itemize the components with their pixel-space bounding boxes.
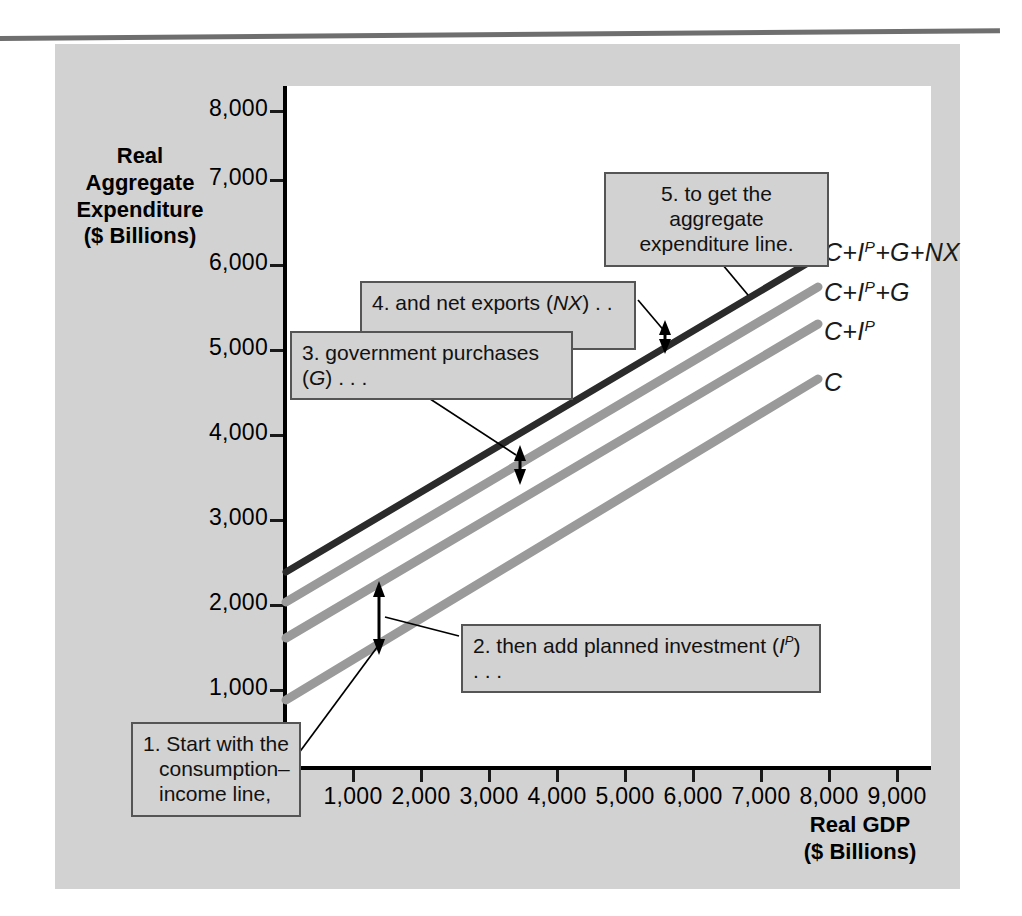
line-label-tail: +G+NX <box>875 238 960 266</box>
y-tick-label: 8,000 <box>158 95 268 122</box>
x-tick-mark <box>760 770 763 782</box>
y-tick-label: 4,000 <box>158 419 268 446</box>
y-tick-label: 1,000 <box>158 674 268 701</box>
callout-1-line-1: 1. Start with the <box>143 731 289 756</box>
y-tick-mark <box>270 110 283 113</box>
x-axis-line <box>283 766 931 770</box>
callout-box-2: 2. then add planned investment (IP) . . … <box>461 624 821 693</box>
line-label-tail: +G <box>875 278 910 306</box>
x-tick-mark <box>488 770 491 782</box>
y-tick-label: 5,000 <box>158 334 268 361</box>
line-label-superscript: P <box>865 238 876 255</box>
line-label-base: C+I <box>824 317 865 345</box>
x-tick-mark <box>556 770 559 782</box>
x-tick-mark <box>352 770 355 782</box>
y-tick-mark <box>270 264 283 267</box>
x-tick-mark <box>624 770 627 782</box>
x-axis-title: Real GDP ($ Billions) <box>740 812 980 866</box>
line-label-c-ip: C+IP <box>824 317 875 346</box>
x-tick-mark <box>828 770 831 782</box>
y-tick-mark <box>270 519 283 522</box>
y-tick-mark <box>270 689 283 692</box>
callout-1-number: 1. <box>143 732 161 755</box>
line-label-superscript: P <box>865 317 876 334</box>
y-axis-title-line: Expenditure <box>60 197 220 224</box>
callout-5-line-1: 5. to get the aggregate <box>616 181 817 231</box>
y-tick-label: 2,000 <box>158 589 268 616</box>
callout-3-variable: G <box>309 366 325 389</box>
aggregate-expenditure-figure: 1,000 2,000 3,000 4,000 5,000 6,000 7,00… <box>0 0 1022 916</box>
callout-3-suffix: ) . . . <box>325 366 367 389</box>
callout-4-variable: NX <box>553 291 582 314</box>
x-tick-mark <box>420 770 423 782</box>
line-label-c: C <box>824 368 842 397</box>
y-tick-label: 3,000 <box>158 504 268 531</box>
x-axis-title-line: ($ Billions) <box>740 839 980 866</box>
x-tick-label: 9,000 <box>852 783 942 810</box>
callout-box-1: 1. Start with the consumption– income li… <box>131 722 301 817</box>
line-label-superscript: P <box>865 278 876 295</box>
callout-1-line-3: income line, <box>143 781 289 806</box>
y-axis-title: Real Aggregate Expenditure ($ Billions) <box>60 143 220 250</box>
line-label-base: C <box>824 368 842 396</box>
callout-5-line-2: expenditure line. <box>616 231 817 256</box>
line-label-base: C+I <box>824 278 865 306</box>
y-axis-title-line: ($ Billions) <box>60 223 220 250</box>
line-label-c-ip-g: C+IP+G <box>824 278 910 307</box>
y-tick-label: 6,000 <box>158 249 268 276</box>
callout-box-5: 5. to get the aggregate expenditure line… <box>604 172 829 267</box>
y-axis-title-line: Real <box>60 143 220 170</box>
y-axis-title-line: Aggregate <box>60 170 220 197</box>
x-tick-mark <box>896 770 899 782</box>
x-tick-mark <box>692 770 695 782</box>
x-axis-title-line: Real GDP <box>740 812 980 839</box>
y-axis-line <box>283 86 287 770</box>
callout-2-prefix: 2. then add planned investment ( <box>473 634 779 657</box>
callout-1-text-1: Start with the <box>166 732 289 755</box>
y-tick-mark <box>270 604 283 607</box>
y-tick-mark <box>270 349 283 352</box>
y-tick-mark <box>270 179 283 182</box>
callout-1-line-2: consumption– <box>143 756 289 781</box>
line-label-aggregate-expenditure: C+IP+G+NX <box>824 238 960 267</box>
top-divider-rule <box>0 28 1000 41</box>
callout-box-3: 3. government purchases (G) . . . <box>290 331 573 400</box>
line-label-base: C+I <box>824 238 865 266</box>
callout-4-prefix: 4. and net exports ( <box>372 291 553 314</box>
y-tick-mark <box>270 434 283 437</box>
